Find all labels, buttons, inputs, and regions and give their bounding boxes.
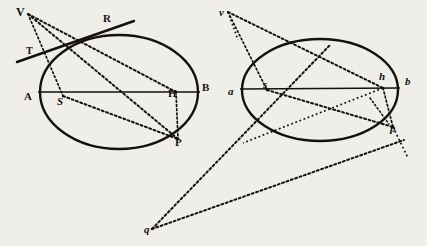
label-R: R <box>103 12 112 24</box>
label-v: v <box>219 6 224 18</box>
label-H: H <box>168 87 177 99</box>
label-a: a <box>228 85 234 97</box>
label-P: P <box>175 136 182 148</box>
label-q: q <box>144 223 150 235</box>
label-h: h <box>379 70 385 82</box>
label-s: s <box>262 78 267 90</box>
label-p: p <box>389 122 396 134</box>
ellipse-construction-svg: V T R A S H B P <box>0 0 427 246</box>
label-T: T <box>26 45 33 56</box>
label-B: B <box>202 81 210 93</box>
label-A: A <box>24 90 32 102</box>
geometric-figure-root: V T R A S H B P <box>0 0 427 246</box>
label-b: b <box>405 75 411 87</box>
vertex-point-q <box>151 228 154 231</box>
paper-background <box>0 0 427 246</box>
label-V: V <box>16 5 25 19</box>
focus-point-h <box>382 87 385 90</box>
label-S: S <box>57 95 63 107</box>
